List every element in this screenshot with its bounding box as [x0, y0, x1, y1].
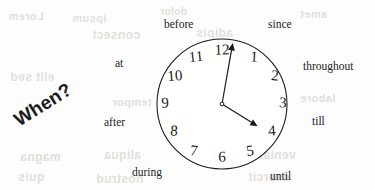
scan-ghost-text: aliqua	[104, 148, 141, 162]
preposition-during: during	[132, 166, 162, 178]
clock-numeral-4: 4	[268, 122, 277, 139]
preposition-before: before	[164, 18, 193, 30]
headline-when: When?	[10, 79, 75, 131]
scan-ghost-text: tempor	[112, 96, 152, 108]
preposition-at: at	[115, 57, 123, 69]
clock-center-pivot	[220, 102, 224, 106]
scan-ghost-text: magna	[20, 150, 61, 164]
preposition-since: since	[268, 18, 292, 30]
scan-ghost-text: amet	[300, 8, 327, 20]
clock-numeral-1: 1	[250, 48, 259, 65]
scan-ghost-text: quis	[18, 170, 44, 184]
scan-ghost-text: elit sed	[10, 70, 55, 84]
scan-ghost-text: consect	[92, 28, 140, 42]
scan-ghost-text: labore	[300, 92, 335, 104]
clock-numeral-6: 6	[218, 148, 226, 165]
clock-numeral-10: 10	[167, 67, 183, 85]
preposition-after: after	[104, 116, 125, 128]
clock-numeral-7: 7	[189, 142, 198, 160]
clock-numeral-9: 9	[161, 94, 169, 111]
scan-ghost-text: Lorem	[8, 10, 44, 22]
clock-numeral-3: 3	[279, 94, 287, 111]
figure-canvas: Loremipsumdolorametconsectadipiselit sed…	[0, 0, 375, 190]
preposition-till: till	[312, 115, 325, 127]
clock-numeral-12: 12	[214, 41, 230, 59]
scan-ghost-text: dolor	[160, 6, 187, 17]
clock-numeral-11: 11	[188, 48, 204, 66]
scan-ghost-text: ipsum	[72, 12, 106, 24]
clock-numeral-8: 8	[170, 122, 179, 139]
preposition-until: until	[270, 170, 291, 182]
preposition-throughout: throughout	[303, 60, 353, 72]
